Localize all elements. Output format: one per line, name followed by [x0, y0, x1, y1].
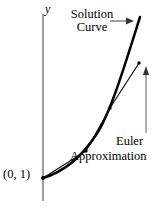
- euler-leader-arrowhead: [143, 66, 149, 75]
- euler-vertex-marker: [108, 106, 111, 109]
- solution-curve-label-line2: Curve: [64, 21, 120, 34]
- euler-label-line2: Approximation: [70, 150, 146, 163]
- initial-condition-point: [41, 176, 45, 180]
- origin-point-label: (0, 1): [3, 168, 30, 181]
- solution-curve-label: Solution Curve: [64, 8, 120, 34]
- euler-vertex-marker: [137, 61, 140, 64]
- euler-approximation-figure: y Solution Curve Euler Approximation (0,…: [0, 0, 158, 212]
- solution-curve-label-line1: Solution: [64, 8, 120, 21]
- euler-label-line1: Euler: [116, 135, 143, 148]
- solution-curve-leader-arrowhead: [126, 18, 134, 25]
- y-axis-label: y: [45, 3, 50, 15]
